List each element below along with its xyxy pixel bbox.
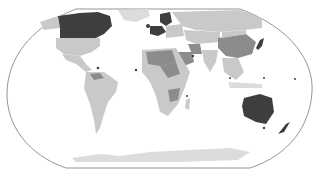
region-eastern-europe [166, 24, 184, 38]
world-map [0, 0, 317, 171]
country-uk [146, 24, 150, 28]
country-singapore [229, 77, 231, 79]
country-tasmania [263, 127, 265, 129]
country-usa-alaska [40, 16, 60, 30]
country-senegal [135, 69, 137, 71]
country-seychelles [186, 95, 188, 97]
country-qatar [192, 55, 194, 57]
pacific-island [263, 77, 265, 79]
country-caribbean [97, 67, 100, 70]
pacific-island [294, 78, 296, 80]
